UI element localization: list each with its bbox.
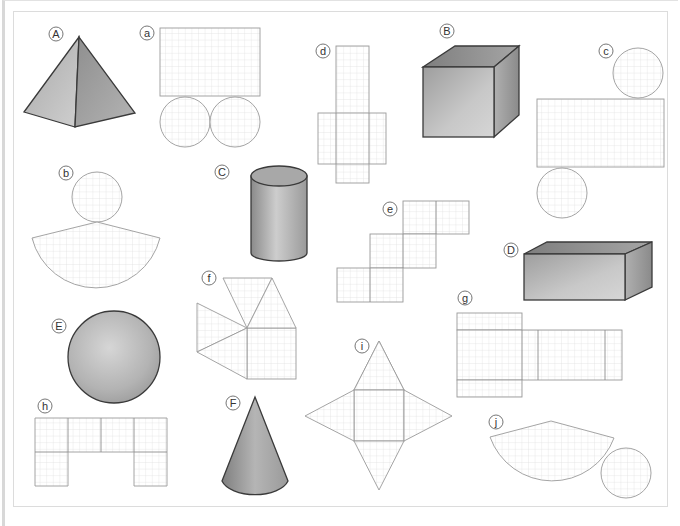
svg-text:e: e — [387, 203, 393, 215]
svg-text:c: c — [603, 45, 609, 57]
label-E: E — [52, 319, 66, 333]
label-g: g — [458, 291, 472, 305]
svg-text:A: A — [52, 28, 60, 40]
label-A: A — [49, 27, 63, 41]
label-i: i — [355, 339, 369, 353]
net-i: i — [305, 339, 452, 490]
net-d: d — [316, 44, 386, 183]
net-h: h — [35, 399, 167, 486]
svg-text:E: E — [55, 320, 62, 332]
svg-text:D: D — [507, 244, 515, 256]
label-a: a — [140, 26, 154, 40]
solid-f-cone: F — [222, 396, 288, 495]
net-g: g — [457, 291, 622, 397]
net-b: b — [32, 166, 160, 288]
svg-text:i: i — [361, 340, 363, 352]
label-j: j — [489, 415, 503, 429]
solid-d-cuboid: D — [504, 242, 652, 300]
svg-text:a: a — [144, 27, 151, 39]
label-f: f — [202, 271, 216, 285]
label-e: e — [383, 202, 397, 216]
svg-text:F: F — [230, 397, 237, 409]
net-e: e — [337, 201, 469, 302]
label-d: d — [316, 44, 330, 58]
label-b: b — [59, 166, 73, 180]
solid-b-cube: B — [423, 24, 519, 137]
label-B: B — [440, 24, 454, 38]
svg-text:g: g — [462, 292, 468, 304]
svg-text:b: b — [63, 167, 69, 179]
solid-a-pyramid: A — [24, 27, 135, 127]
label-C: C — [215, 165, 229, 179]
label-D: D — [504, 243, 518, 257]
net-a: a — [140, 26, 260, 147]
solid-c-cylinder: C — [215, 165, 307, 261]
solid-e-sphere: E — [52, 311, 160, 403]
label-c: c — [599, 44, 613, 58]
svg-text:j: j — [494, 416, 497, 428]
label-h: h — [38, 399, 52, 413]
net-f: f — [197, 271, 296, 379]
label-F: F — [226, 396, 240, 410]
net-c: c — [537, 44, 664, 218]
net-j: j — [489, 415, 651, 498]
svg-text:B: B — [443, 25, 450, 37]
svg-text:h: h — [42, 400, 48, 412]
worksheet-canvas: A B C D E F — [0, 0, 680, 526]
svg-text:C: C — [218, 166, 226, 178]
svg-text:d: d — [320, 45, 326, 57]
